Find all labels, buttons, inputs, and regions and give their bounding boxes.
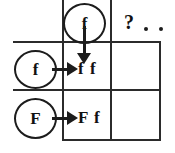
- left-parent-allele-circle-row1: f: [14, 50, 57, 89]
- left-parent-allele-label-row2: F: [30, 110, 40, 127]
- punnett-cell-1-0: F f: [78, 109, 101, 126]
- ellipsis-dot-2: [159, 27, 163, 31]
- grid-line-middle: [13, 89, 161, 91]
- question-mark-annotation: ?: [124, 12, 134, 32]
- punnett-square-figure: f f F f f F f ?: [0, 0, 175, 153]
- left-parent-arrow-head-icon-row2: [67, 111, 78, 125]
- punnett-cell-0-0: f f: [78, 60, 97, 77]
- grid-line-right: [159, 41, 161, 141]
- left-parent-arrow-head-icon-row1: [67, 62, 78, 76]
- left-parent-allele-label-row1: f: [33, 61, 39, 78]
- left-parent-allele-circle-row2: F: [14, 98, 57, 139]
- ellipsis-dot-1: [144, 27, 148, 31]
- grid-line-center: [110, 0, 112, 141]
